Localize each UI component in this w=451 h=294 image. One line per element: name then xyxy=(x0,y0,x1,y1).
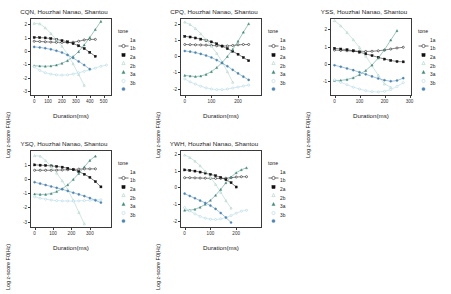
legend-label: 3a xyxy=(430,72,435,77)
legend-item-2a[interactable]: 2a xyxy=(118,185,150,194)
legend-item-1a[interactable]: 1a xyxy=(118,36,150,45)
legend-item-1b[interactable]: 1b xyxy=(418,45,450,54)
legend-label: 1a xyxy=(130,170,135,175)
x-tick-mark xyxy=(210,228,211,230)
chart-panel-0: CQN, Houzhai Nanao, Shantou0100200300400… xyxy=(0,0,150,132)
legend-item-2b[interactable]: 2b xyxy=(418,62,450,71)
legend-item-1b[interactable]: 1b xyxy=(268,177,300,186)
y-tick-mark xyxy=(28,51,30,52)
x-tick-label: 300 xyxy=(72,99,80,104)
x-tick-label: 300 xyxy=(86,231,94,236)
legend-label: 2b xyxy=(130,196,135,201)
x-tick-label: 200 xyxy=(381,99,389,104)
legend: tone1a1b2a2b3a3b xyxy=(118,28,150,88)
y-tick-mark xyxy=(178,24,180,25)
legend-label: 1b xyxy=(430,46,435,51)
legend-label: 3a xyxy=(130,72,135,77)
y-tick-mark xyxy=(28,91,30,92)
y-tick-mark xyxy=(178,204,180,205)
legend-item-2b[interactable]: 2b xyxy=(118,62,150,71)
x-tick-mark xyxy=(185,96,186,98)
x-tick-mark xyxy=(238,96,239,98)
legend-item-2b[interactable]: 2b xyxy=(268,194,300,203)
y-axis-label-text: Log z-score F0(Hz) xyxy=(5,228,11,294)
open-triangle-icon xyxy=(118,53,129,61)
x-tick-label: 300 xyxy=(406,99,414,104)
x-tick-mark xyxy=(211,96,212,98)
chart-panel-4: YWH, Houzhai Nanao, Shantou0100200210-1-… xyxy=(150,132,300,264)
legend-item-1b[interactable]: 1b xyxy=(118,177,150,186)
x-tick-label: 200 xyxy=(232,231,240,236)
legend-item-3a[interactable]: 3a xyxy=(118,70,150,79)
legend-title: tone xyxy=(118,160,150,166)
x-axis-label: Duration(ms) xyxy=(30,244,112,251)
y-axis-label-text: Log z-score F0(Hz) xyxy=(305,96,311,174)
legend-item-3a[interactable]: 3a xyxy=(118,202,150,211)
y-tick-mark xyxy=(28,222,30,223)
series-layer xyxy=(180,150,262,228)
legend-item-2b[interactable]: 2b xyxy=(268,62,300,71)
legend-item-3b[interactable]: 3b xyxy=(268,211,300,220)
filled-triangle-icon xyxy=(418,62,429,70)
y-axis-label: Log z-score F0(Hz) xyxy=(164,18,170,96)
filled-circle-icon xyxy=(268,211,279,219)
legend-item-1b[interactable]: 1b xyxy=(268,45,300,54)
legend-item-1a[interactable]: 1a xyxy=(268,36,300,45)
y-axis-label-text: Log z-score F0(Hz) xyxy=(155,228,161,294)
legend-item-1b[interactable]: 1b xyxy=(118,45,150,54)
x-tick-label: 200 xyxy=(58,99,66,104)
legend-item-2b[interactable]: 2b xyxy=(118,194,150,203)
series-layer xyxy=(330,18,412,96)
legend-item-1a[interactable]: 1a xyxy=(118,168,150,177)
legend-item-2a[interactable]: 2a xyxy=(268,185,300,194)
legend-item-1a[interactable]: 1a xyxy=(268,168,300,177)
y-axis-label: Log z-score F0(Hz) xyxy=(14,18,20,96)
y-tick-mark xyxy=(178,72,180,73)
open-circle-icon xyxy=(268,71,279,79)
legend-label: 1a xyxy=(280,38,285,43)
legend-item-3b[interactable]: 3b xyxy=(118,211,150,220)
legend-item-3b[interactable]: 3b xyxy=(418,79,450,88)
y-tick-mark xyxy=(28,78,30,79)
open-circle-line-icon xyxy=(418,36,429,44)
x-axis-label: Duration(ms) xyxy=(180,112,262,119)
y-tick-mark xyxy=(178,56,180,57)
legend-item-3a[interactable]: 3a xyxy=(268,202,300,211)
legend-item-3b[interactable]: 3b xyxy=(268,79,300,88)
series-layer xyxy=(180,18,262,96)
legend-item-2a[interactable]: 2a xyxy=(418,53,450,62)
plot-area: 0100200300400500210-1-2-3 xyxy=(30,18,112,96)
y-tick-mark xyxy=(28,207,30,208)
panel-title: CQN, Houzhai Nanao, Shantou xyxy=(0,8,128,15)
y-axis-label: Log z-score F0(Hz) xyxy=(314,18,320,96)
legend: tone1a1b2a2b3a3b xyxy=(418,28,450,88)
legend-item-3a[interactable]: 3a xyxy=(268,70,300,79)
x-tick-mark xyxy=(410,96,411,98)
plot-area: 0100200210-1-2 xyxy=(180,150,262,228)
legend-label: 1a xyxy=(430,38,435,43)
legend-item-3a[interactable]: 3a xyxy=(418,70,450,79)
legend-label: 2a xyxy=(280,55,285,60)
legend-label: 3b xyxy=(280,213,285,218)
legend: tone1a1b2a2b3a3b xyxy=(268,28,300,88)
filled-square-icon xyxy=(268,45,279,53)
plot-area: 010020030010-1-2-3 xyxy=(30,150,112,228)
legend-item-2a[interactable]: 2a xyxy=(268,53,300,62)
legend-label: 2a xyxy=(130,55,135,60)
x-tick-mark xyxy=(90,96,91,98)
x-tick-label: 100 xyxy=(207,231,215,236)
series-layer xyxy=(30,18,112,96)
x-tick-label: 500 xyxy=(100,99,108,104)
legend-item-3b[interactable]: 3b xyxy=(118,79,150,88)
panel-title: CPQ, Houzhai Nanao, Shantou xyxy=(150,8,278,15)
open-circle-icon xyxy=(118,203,129,211)
x-axis-label: Duration(ms) xyxy=(180,244,262,251)
x-tick-mark xyxy=(34,96,35,98)
y-tick-mark xyxy=(328,64,330,65)
panel-title: YWH, Houzhai Nanao, Shantou xyxy=(150,140,278,147)
plot-area: 0100200210-1-2 xyxy=(180,18,262,96)
legend-item-1a[interactable]: 1a xyxy=(418,36,450,45)
legend-item-2a[interactable]: 2a xyxy=(118,53,150,62)
legend-title: tone xyxy=(118,28,150,34)
y-tick-mark xyxy=(28,193,30,194)
